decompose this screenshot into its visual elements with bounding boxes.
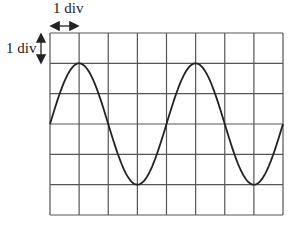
oscilloscope-display: [0, 0, 295, 227]
